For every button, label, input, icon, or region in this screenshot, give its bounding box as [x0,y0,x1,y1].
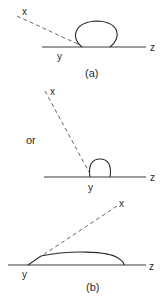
label-y: y [22,269,27,280]
caption-a: (a) [85,67,98,79]
tangent-line-x-y [45,91,89,172]
label-z: z [150,172,155,183]
tangent-line-x-y [43,206,117,255]
tangent-line-x-y [17,16,80,45]
label-x: x [50,86,55,97]
panel-b: x y z (b) [8,198,154,293]
panel-or: x y z [44,86,155,193]
drop-outline [28,252,124,265]
label-z: z [149,261,154,272]
drop-outline [89,159,110,177]
label-x: x [119,198,124,209]
panel-a: x y z (a) [17,6,155,79]
label-y: y [88,182,93,193]
label-y: y [57,51,62,62]
contact-angle-diagram: x y z (a) or x y z x y z (b) [0,0,163,299]
drop-outline [75,21,117,47]
caption-b: (b) [86,281,99,293]
connector-or: or [26,134,36,146]
label-z: z [150,42,155,53]
label-x: x [22,6,27,17]
